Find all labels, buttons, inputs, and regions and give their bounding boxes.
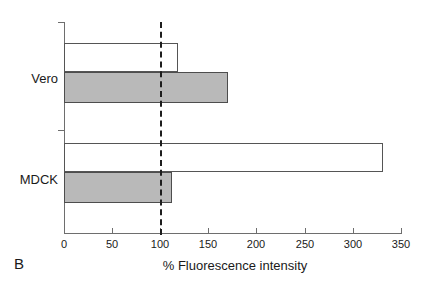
y-axis-tick (58, 130, 65, 131)
x-axis-label-250: 250 (285, 238, 325, 251)
category-label-vero: Vero (4, 71, 58, 86)
x-axis-tick-200 (256, 228, 257, 234)
y-axis-tick (58, 22, 65, 23)
bar-mdck-filled (64, 172, 172, 203)
x-axis-label-100: 100 (140, 238, 180, 251)
x-axis-line (64, 233, 401, 234)
reference-line-100 (160, 22, 162, 235)
x-axis-tick-50 (112, 228, 113, 234)
x-axis-label-350: 350 (381, 238, 421, 251)
x-axis-label-300: 300 (333, 238, 373, 251)
category-label-mdck: MDCK (4, 172, 58, 187)
x-axis-label-150: 150 (188, 238, 228, 251)
x-axis-tick-350 (401, 228, 402, 234)
chart-figure: 0 50 100 150 200 250 300 350 Vero MDCK %… (0, 0, 433, 288)
bar-mdck-open (64, 143, 383, 172)
bar-vero-filled (64, 72, 228, 103)
x-axis-tick-0 (64, 228, 65, 234)
x-axis-title: % Fluorescence intensity (100, 258, 370, 273)
x-axis-label-200: 200 (236, 238, 276, 251)
x-axis-tick-150 (208, 228, 209, 234)
x-axis-tick-250 (305, 228, 306, 234)
x-axis-label-0: 0 (44, 238, 84, 251)
x-axis-tick-300 (353, 228, 354, 234)
panel-label: B (14, 255, 24, 272)
x-axis-label-50: 50 (92, 238, 132, 251)
